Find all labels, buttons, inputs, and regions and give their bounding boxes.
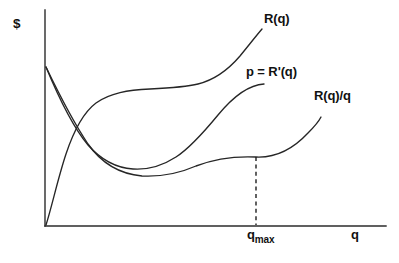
revenue-curves-figure: $ R(q) p = R'(q) R(q)/q qmax q <box>0 0 399 263</box>
x-axis-label: q <box>351 228 359 241</box>
total-revenue-curve <box>46 29 262 225</box>
total-revenue-label: R(q) <box>264 12 290 25</box>
marginal-revenue-curve <box>46 67 264 169</box>
marginal-revenue-label: p = R'(q) <box>246 65 297 78</box>
figure-canvas <box>0 0 399 263</box>
average-revenue-label: R(q)/q <box>314 89 351 102</box>
average-revenue-curve <box>46 67 321 176</box>
y-axis-label: $ <box>13 17 20 31</box>
qmax-base: q <box>247 227 255 242</box>
qmax-label: qmax <box>247 228 274 245</box>
qmax-subscript: max <box>255 234 274 245</box>
